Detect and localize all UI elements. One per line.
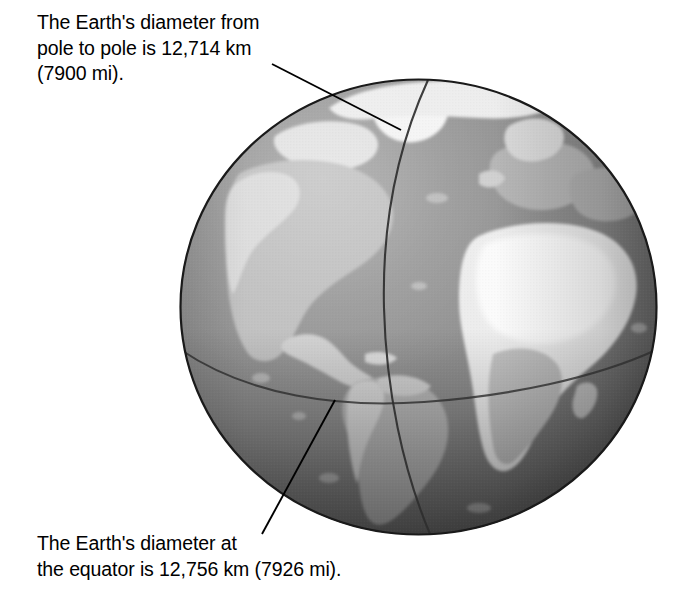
globe-illustration — [179, 78, 658, 536]
globe — [179, 78, 658, 536]
equatorial-diameter-caption: The Earth's diameter at the equator is 1… — [37, 531, 467, 582]
earth-diameter-figure: The Earth's diameter from pole to pole i… — [0, 0, 694, 592]
polar-diameter-caption: The Earth's diameter from pole to pole i… — [37, 10, 367, 87]
